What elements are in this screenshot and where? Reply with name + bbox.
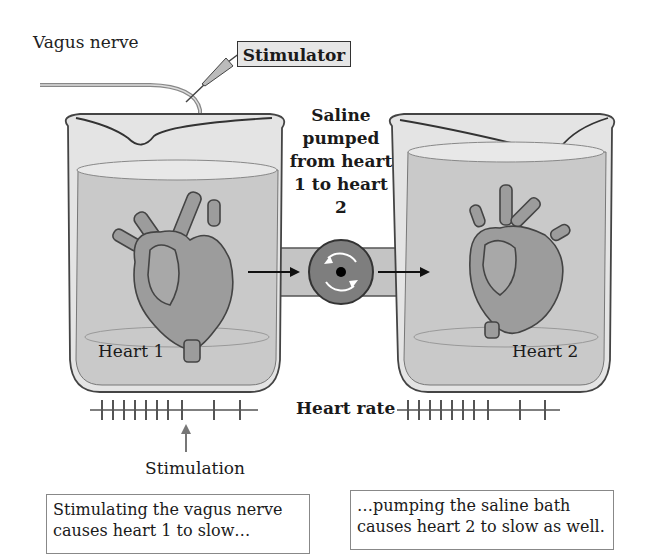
heart-rate-label: Heart rate [296,398,395,418]
saline-pumped-label: Saline pumped from heart 1 to heart 2 [287,104,395,219]
caption-left: Stimulating the vagus nerve causes heart… [46,494,310,554]
heart-1-label: Heart 1 [98,341,164,361]
vagus-nerve-label: Vagus nerve [33,32,139,52]
heart-2-label: Heart 2 [512,341,578,361]
heart-rate-trace-1 [90,400,258,420]
pump-icon [309,240,373,304]
electrode-tip [202,58,233,86]
heart-rate-trace-2 [397,400,560,420]
stimulator-label: Stimulator [237,41,351,67]
stimulation-label: Stimulation [145,458,245,478]
caption-right: …pumping the saline bath causes heart 2 … [350,490,614,550]
